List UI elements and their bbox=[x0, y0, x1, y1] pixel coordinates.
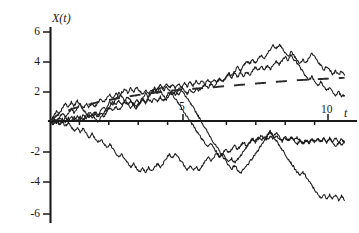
y-tick-label-6: 6 bbox=[22, 26, 40, 38]
y-axis-title: X(t) bbox=[52, 12, 71, 24]
series-paths-group bbox=[51, 44, 345, 201]
brownian-motion-figure: X(t) t 6 4 2 -2 -4 -6 5 10 bbox=[0, 0, 359, 233]
sample-path-3 bbox=[51, 86, 345, 162]
x-axis-title: t bbox=[344, 107, 347, 119]
y-tick-label-4: 4 bbox=[22, 56, 40, 68]
x-tick-label-10: 10 bbox=[321, 104, 333, 116]
y-tick-label-minus-6: -6 bbox=[18, 208, 40, 220]
sample-path-4 bbox=[51, 120, 345, 173]
y-tick-marks bbox=[43, 32, 50, 214]
x-tick-marks bbox=[79, 114, 328, 125]
plot-canvas bbox=[0, 0, 359, 233]
y-tick-label-2: 2 bbox=[22, 86, 40, 98]
y-tick-label-minus-4: -4 bbox=[18, 176, 40, 188]
x-tick-label-5: 5 bbox=[179, 101, 185, 113]
y-tick-label-minus-2: -2 bbox=[18, 146, 40, 158]
